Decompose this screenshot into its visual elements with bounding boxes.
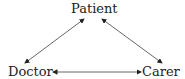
node-doctor: Doctor [8, 65, 53, 79]
node-carer: Carer [142, 65, 180, 79]
node-patient: Patient [71, 2, 118, 16]
edge-patient-doctor [25, 19, 84, 63]
edge-patient-carer [102, 19, 162, 63]
